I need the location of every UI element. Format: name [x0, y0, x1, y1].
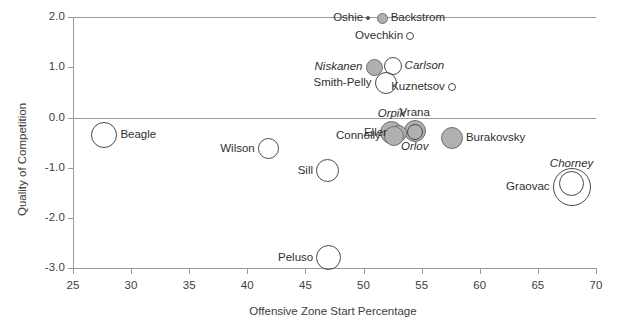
point-label: Wilson: [220, 143, 255, 155]
point-label: Chorney: [550, 158, 593, 170]
bubble-kuznetsov[interactable]: [448, 83, 456, 91]
y-tick-label: -2.0: [33, 211, 65, 223]
y-tick-label: -3.0: [33, 261, 65, 273]
x-tick-mark: [422, 268, 423, 274]
x-tick-mark: [73, 268, 74, 274]
y-tick-mark: [68, 67, 74, 68]
x-tick-label: 65: [518, 279, 558, 291]
x-tick-label: 30: [111, 279, 151, 291]
point-label: Smith-Pelly: [313, 78, 371, 90]
bubble-ovechkin[interactable]: [406, 32, 414, 40]
point-label: Beagle: [120, 129, 156, 141]
y-tick-label: -1.0: [33, 161, 65, 173]
zero-reference-line: [73, 118, 596, 119]
y-tick-label: 2.0: [33, 10, 65, 22]
x-tick-mark: [596, 268, 597, 274]
y-tick-label: 0.0: [33, 111, 65, 123]
y-axis-title: Quality of Competition: [16, 103, 28, 216]
x-tick-mark: [480, 268, 481, 274]
x-tick-label: 45: [285, 279, 325, 291]
bubble-wilson[interactable]: [258, 138, 279, 159]
point-label: Oshie: [333, 12, 363, 24]
point-label: Connolly: [336, 131, 381, 143]
x-tick-label: 70: [576, 279, 616, 291]
x-tick-label: 40: [227, 279, 267, 291]
point-label: Kuznetsov: [391, 82, 445, 94]
x-tick-mark: [305, 268, 306, 274]
point-label: Backstrom: [391, 12, 445, 24]
x-tick-label: 60: [460, 279, 500, 291]
point-label: Peluso: [278, 252, 313, 264]
y-tick-mark: [68, 17, 74, 18]
point-label: Niskanen: [315, 61, 363, 73]
x-tick-mark: [189, 268, 190, 274]
x-tick-label: 25: [53, 279, 93, 291]
y-tick-mark: [68, 118, 74, 119]
x-tick-label: 50: [344, 279, 384, 291]
scatter-chart: 2.0 1.0 0.0 -1.0 -2.0 -3.0 2530354045505…: [0, 0, 620, 335]
point-label: Sill: [298, 165, 313, 177]
point-label: Orlov: [401, 142, 428, 154]
point-label: Burakovsky: [466, 133, 525, 145]
x-tick-label: 55: [402, 279, 442, 291]
bubble-sill[interactable]: [316, 159, 339, 182]
x-tick-label: 35: [169, 279, 209, 291]
y-axis-line: [73, 17, 74, 269]
y-tick-mark: [68, 168, 74, 169]
point-label: Carlson: [405, 60, 445, 72]
x-tick-mark: [247, 268, 248, 274]
y-tick-mark: [68, 218, 74, 219]
x-tick-mark: [364, 268, 365, 274]
y-tick-label: 1.0: [33, 60, 65, 72]
point-label: Graovac: [506, 181, 549, 193]
bubble-peluso[interactable]: [316, 245, 341, 270]
bubble-backstrom[interactable]: [377, 13, 388, 24]
x-tick-mark: [538, 268, 539, 274]
bubble-oshie[interactable]: [366, 16, 370, 20]
x-tick-mark: [131, 268, 132, 274]
x-axis-title: Offensive Zone Start Percentage: [173, 305, 493, 317]
point-label: Orpik: [378, 108, 405, 120]
point-label: Ovechkin: [355, 30, 403, 42]
bubble-beagle[interactable]: [91, 122, 117, 148]
bubble-burakovsky[interactable]: [441, 127, 463, 149]
